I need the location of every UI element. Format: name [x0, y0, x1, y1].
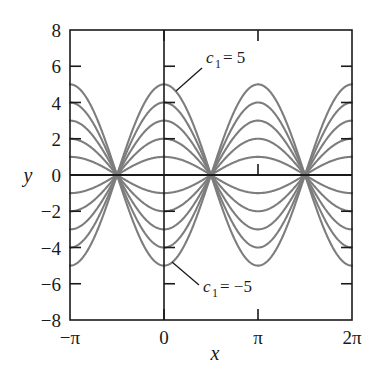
- y-tick-label: 0: [52, 165, 62, 186]
- chart-svg: 86420−2−4−6−8−π0π2π x y c 1 = 5 c 1 = −5: [0, 0, 377, 369]
- annotation-upper-symbol: c: [206, 48, 214, 67]
- annotation-lower-symbol: c: [203, 277, 211, 296]
- x-tick-label: −π: [60, 327, 81, 348]
- annotation-lower-value: = −5: [220, 277, 252, 296]
- annotation-upper-subscript: 1: [215, 57, 221, 71]
- y-tick-label: −2: [41, 201, 61, 222]
- y-tick-label: −6: [41, 274, 61, 295]
- y-tick-label: −4: [41, 238, 62, 259]
- x-tick-label: 0: [159, 327, 169, 348]
- x-tick-label: 2π: [342, 327, 362, 348]
- y-tick-label: −8: [41, 310, 61, 331]
- annotation-upper-value: = 5: [223, 48, 245, 67]
- chart-figure: 86420−2−4−6−8−π0π2π x y c 1 = 5 c 1 = −5: [0, 0, 377, 369]
- y-tick-label: 6: [52, 56, 62, 77]
- x-tick-label: π: [253, 327, 263, 348]
- y-tick-label: 4: [52, 93, 62, 114]
- y-tick-label: 2: [52, 129, 62, 150]
- y-axis-title: y: [22, 164, 33, 187]
- annotation-lower-subscript: 1: [212, 286, 218, 300]
- y-tick-label: 8: [52, 20, 62, 41]
- x-axis-title: x: [210, 342, 220, 364]
